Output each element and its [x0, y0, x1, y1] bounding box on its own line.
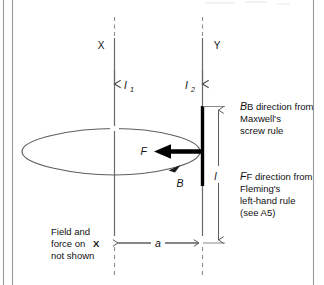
footnote-bold-x: X — [93, 238, 100, 249]
annotation-f-line-1: F direction from — [247, 171, 313, 182]
field-ellipse-wire-gap — [110, 126, 119, 131]
label-field-b: B — [176, 177, 183, 189]
annotation-f-line-4: (see A5) — [240, 207, 275, 218]
diagram-canvas: l a X Y I 1 I 2 F B B B direction from M… — [0, 0, 324, 285]
label-current-i2-subscript: 2 — [190, 86, 195, 93]
label-separation-a: a — [155, 237, 161, 249]
label-conductor-y: Y — [214, 40, 221, 51]
label-current-i2: I — [185, 79, 188, 91]
annotation-b-line-2: Maxwell's — [240, 113, 281, 124]
physics-figure: l a X Y I 1 I 2 F B B B direction from M… — [0, 0, 324, 285]
annotation-f-line-3: left-hand rule — [240, 195, 295, 206]
annotation-b-line-3: screw rule — [240, 125, 283, 136]
footnote-line-3: not shown — [51, 250, 94, 261]
annotation-b-lead-symbol: B — [240, 100, 247, 112]
annotation-f-line-2: Fleming's — [240, 183, 281, 194]
label-conductor-x: X — [98, 40, 105, 51]
label-force-f: F — [141, 145, 148, 157]
label-current-i1-subscript: 1 — [130, 86, 134, 93]
annotation-b-line-1: B direction from — [247, 101, 314, 112]
label-current-i1: I — [124, 79, 127, 91]
footnote-line-2-group: force on X — [51, 238, 100, 249]
footnote-line-2: force on — [51, 238, 85, 249]
footnote-line-1: Field and — [51, 226, 90, 237]
